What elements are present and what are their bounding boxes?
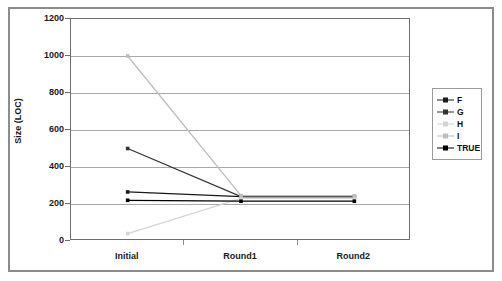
series-marker xyxy=(239,194,243,198)
y-axis-tick-label: 800 xyxy=(20,87,64,97)
x-axis-tick-label: Round2 xyxy=(337,251,371,261)
series-layer xyxy=(71,19,411,241)
legend-item-g[interactable]: G xyxy=(437,106,478,118)
series-marker xyxy=(126,54,130,58)
y-axis-tick-mark xyxy=(65,129,70,130)
y-axis-tick-label: 1200 xyxy=(20,13,64,23)
y-axis-tick-label: 200 xyxy=(20,198,64,208)
y-axis-tick-label: 0 xyxy=(20,235,64,245)
plot-area xyxy=(70,18,410,240)
legend-item-label: H xyxy=(457,119,463,129)
y-axis-tick-mark xyxy=(65,166,70,167)
legend-item-true[interactable]: TRUE xyxy=(437,142,478,154)
chart-figure: Size (LOC) 020040060080010001200 Initial… xyxy=(0,0,502,281)
y-axis-tick-mark xyxy=(65,18,70,19)
chart-legend: FGHITRUE xyxy=(432,88,482,160)
series-line xyxy=(128,198,355,233)
series-line xyxy=(128,56,355,196)
legend-item-label: G xyxy=(457,107,464,117)
series-marker xyxy=(353,194,357,198)
legend-item-f[interactable]: F xyxy=(437,94,478,106)
legend-item-h[interactable]: H xyxy=(437,118,478,130)
legend-swatch-icon xyxy=(437,107,454,117)
x-axis-tick-mark xyxy=(183,240,184,245)
series-marker xyxy=(126,147,130,151)
legend-item-label: TRUE xyxy=(457,143,480,153)
series-marker xyxy=(239,199,243,203)
legend-item-label: I xyxy=(457,131,459,141)
y-axis-tick-mark xyxy=(65,240,70,241)
y-axis-tick-label: 400 xyxy=(20,161,64,171)
x-axis-tick-label: Round1 xyxy=(223,251,257,261)
legend-swatch-icon xyxy=(437,95,454,105)
legend-swatch-icon xyxy=(437,131,454,141)
legend-swatch-icon xyxy=(437,119,454,129)
series-line xyxy=(128,149,355,197)
legend-item-i[interactable]: I xyxy=(437,130,478,142)
series-marker xyxy=(126,190,130,194)
legend-swatch-icon xyxy=(437,143,454,153)
y-axis-tick-label: 600 xyxy=(20,124,64,134)
series-i xyxy=(126,54,356,197)
y-axis-tick-mark xyxy=(65,203,70,204)
series-marker xyxy=(353,199,357,203)
legend-item-label: F xyxy=(457,95,462,105)
x-axis-tick-mark xyxy=(297,240,298,245)
y-axis-tick-label: 1000 xyxy=(20,50,64,60)
y-axis-tick-mark xyxy=(65,92,70,93)
series-marker xyxy=(126,232,130,236)
series-g xyxy=(126,147,356,199)
x-axis-tick-label: Initial xyxy=(115,251,139,261)
y-axis-tick-mark xyxy=(65,55,70,56)
series-marker xyxy=(126,199,130,203)
